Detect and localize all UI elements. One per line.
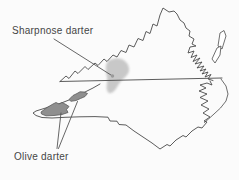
virginia-eastern-shore-lower [212,46,221,63]
olive-range-region-large [41,103,69,116]
state-border-line [60,78,222,82]
olive-range-region-small [69,92,88,102]
sharpnose-leader-line [54,39,113,76]
range-map-figure: Sharpnose darter Olive darter [0,0,239,180]
olive-darter-label: Olive darter [14,151,69,163]
sharpnose-darter-label: Sharpnose darter [12,25,93,37]
virginia-outline [60,8,213,82]
virginia-eastern-shore-upper [218,31,226,50]
sharpnose-range-region [106,58,129,93]
sharpnose-leader-dot [111,74,114,77]
